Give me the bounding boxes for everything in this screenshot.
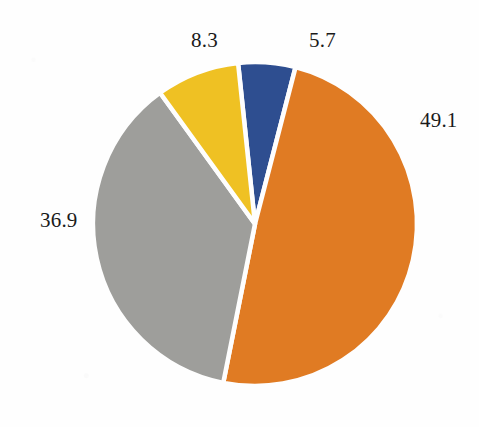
pie-value-label-navy-blue: 5.7 xyxy=(309,30,336,51)
pie-value-label-gray: 36.9 xyxy=(40,210,78,231)
pie-slice-group xyxy=(93,62,417,386)
pie-chart: 5.749.136.98.3 xyxy=(0,0,479,427)
pie-value-label-orange: 49.1 xyxy=(420,110,458,131)
pie-value-label-gold-yellow: 8.3 xyxy=(191,30,218,51)
